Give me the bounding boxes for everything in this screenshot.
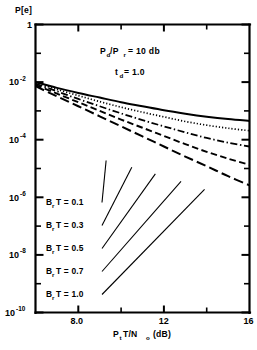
y-tick-label: 10-2 [9, 75, 26, 88]
annotation-power-ratio: P d /P r = 10 db [100, 46, 160, 58]
y-tick-exponent: -6 [20, 190, 26, 197]
legend-label-part2: T = 1.0 [56, 289, 84, 299]
x-axis-title-sub1: t [120, 334, 122, 341]
annotation-1-part2: /P [110, 46, 119, 56]
y-tick-mantissa: 10 [5, 308, 15, 318]
x-axis-title-sub2: o [146, 334, 150, 341]
y-tick-label: 10-6 [9, 190, 26, 203]
y-tick-label: 10-10 [5, 305, 26, 318]
legend-item-3: BrT = 0.7 [46, 266, 84, 278]
annotation-1-part1: P [100, 46, 106, 56]
legend: BrT = 0.1BrT = 0.3BrT = 0.5BrT = 0.7BrT … [46, 197, 84, 301]
leader-line-0 [102, 160, 106, 202]
y-tick-label: 1 [27, 20, 32, 30]
legend-label-part2: T = 0.3 [56, 220, 84, 230]
curve-series-3 [36, 85, 250, 165]
legend-label-sub: r [52, 294, 55, 301]
y-axis-tick-labels: 110-210-410-610-810-10 [5, 20, 32, 318]
x-axis-title-main2: T/N [123, 329, 137, 339]
y-tick-mantissa: 10 [9, 193, 19, 203]
curve-series-4 [36, 86, 250, 185]
data-curves [36, 82, 250, 185]
leader-line-3 [102, 181, 181, 271]
y-tick-exponent: -2 [20, 75, 26, 82]
y-axis-title: P[e] [15, 5, 32, 15]
annotation-2-sub1: d [120, 72, 124, 79]
x-axis-title-main3: (dB) [153, 329, 171, 339]
legend-item-2: BrT = 0.5 [46, 243, 84, 255]
chart-figure: 110-210-410-610-810-10 8.01216 P[e] P t … [0, 0, 257, 350]
legend-label-part2: T = 0.5 [56, 243, 84, 253]
annotation-2-part1: t [115, 67, 118, 77]
leader-line-4 [102, 189, 205, 294]
leader-line-2 [102, 174, 155, 249]
legend-item-1: BrT = 0.3 [46, 220, 84, 232]
legend-label-sub: r [52, 271, 55, 278]
leader-line-1 [102, 167, 132, 225]
x-tick-label: 12 [159, 316, 169, 326]
legend-leader-lines [102, 160, 205, 294]
y-tick-mantissa: 1 [27, 20, 32, 30]
chart-canvas: 110-210-410-610-810-10 8.01216 P[e] P t … [0, 0, 257, 350]
annotation-delay: t d = 1.0 [115, 67, 145, 79]
y-tick-exponent: -10 [16, 305, 26, 312]
annotation-1-sub2: r [124, 51, 127, 58]
x-tick-label: 16 [244, 316, 254, 326]
y-tick-mantissa: 10 [9, 250, 19, 260]
y-tick-label: 10-4 [9, 132, 26, 145]
y-tick-exponent: -4 [20, 132, 26, 139]
y-tick-mantissa: 10 [9, 135, 19, 145]
annotation-2-part2: = 1.0 [124, 67, 145, 77]
legend-label-sub: r [52, 248, 55, 255]
legend-label-sub: r [52, 225, 55, 232]
x-tick-label: 8.0 [71, 316, 84, 326]
x-axis-tick-labels: 8.01216 [71, 316, 254, 326]
legend-item-0: BrT = 0.1 [46, 197, 84, 209]
annotation-1-part3: = 10 db [128, 46, 160, 56]
legend-item-4: BrT = 1.0 [46, 289, 84, 301]
x-axis-title-main1: P [113, 329, 119, 339]
x-axis-title: P t T/N o (dB) [113, 329, 171, 341]
y-tick-mantissa: 10 [9, 77, 19, 87]
legend-label-part2: T = 0.1 [56, 197, 84, 207]
y-tick-label: 10-8 [9, 247, 26, 260]
legend-label-sub: r [52, 202, 55, 209]
y-tick-exponent: -8 [20, 247, 26, 254]
legend-label-part2: T = 0.7 [56, 266, 84, 276]
